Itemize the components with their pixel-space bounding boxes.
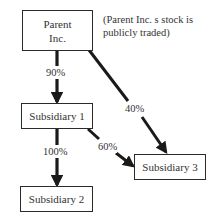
- node-label: Subsidiary 2: [29, 192, 84, 206]
- node-label-line: Parent: [43, 17, 71, 31]
- node-subsidiary-2: Subsidiary 2: [20, 186, 93, 212]
- edge-label-90: 90%: [46, 67, 65, 79]
- node-subsidiary-3: Subsidiary 3: [134, 154, 206, 180]
- node-label-line: Inc.: [43, 31, 71, 45]
- ownership-diagram: Parent Inc. Subsidiary 1 Subsidiary 2 Su…: [0, 0, 215, 224]
- node-subsidiary-1: Subsidiary 1: [21, 103, 93, 129]
- note-line: publicly traded): [103, 26, 193, 39]
- node-label: Subsidiary 1: [29, 109, 84, 123]
- edge-label-40: 40%: [125, 103, 144, 115]
- edge-label-60: 60%: [98, 141, 117, 153]
- node-parent-inc: Parent Inc.: [22, 10, 93, 51]
- edge-label-100: 100%: [43, 146, 68, 158]
- edge-parent-to-sub3: [89, 50, 166, 152]
- note-line: (Parent Inc. s stock is: [103, 13, 193, 26]
- node-label: Subsidiary 3: [142, 160, 197, 174]
- public-trading-note: (Parent Inc. s stock is publicly traded): [103, 13, 193, 39]
